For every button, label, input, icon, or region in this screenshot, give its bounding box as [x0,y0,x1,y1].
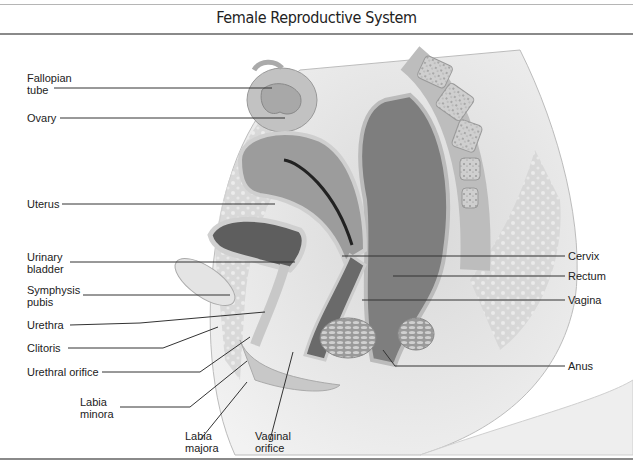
bottom-border [0,458,633,460]
label-labia-majora: Labia majora [185,430,219,454]
label-labia-minora: Labia minora [80,396,114,420]
label-uterus: Uterus [27,198,59,210]
label-clitoris: Clitoris [27,342,61,354]
label-urinary-bladder: Urinary bladder [27,251,64,275]
perineal-muscle [320,318,376,358]
label-anus: Anus [568,360,593,372]
label-vagina: Vagina [568,294,601,306]
label-symphysis-pubis: Symphysis pubis [27,284,80,308]
anal-sphincter [398,318,434,350]
diagram-title: Female Reproductive System [32,8,602,27]
label-rectum: Rectum [568,270,606,282]
title-divider [0,33,633,35]
label-cervix: Cervix [568,250,599,262]
label-vaginal-orifice: Vaginal orifice [255,430,291,454]
label-urethra: Urethra [27,319,64,331]
label-fallopian-tube: Fallopian tube [27,72,72,96]
anatomy-illustration [0,36,633,458]
label-urethral-orifice: Urethral orifice [27,366,99,378]
top-border [0,4,633,5]
label-ovary: Ovary [27,112,56,124]
